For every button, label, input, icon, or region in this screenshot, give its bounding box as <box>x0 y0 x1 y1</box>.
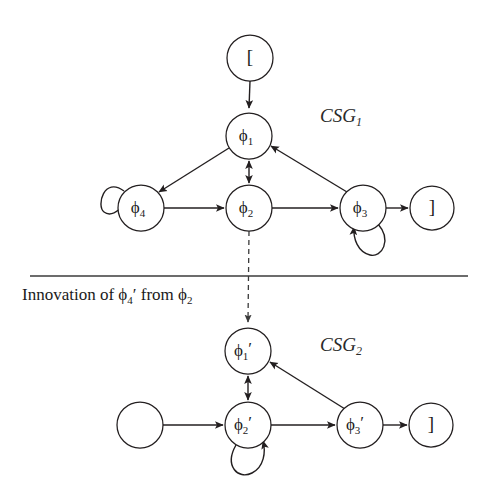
node-phi1-prime[interactable]: ϕ1′ <box>225 328 271 374</box>
diagram-root: [ ϕ1 ϕ4 ϕ2 <box>0 0 488 494</box>
graph-label-csg2-base: CSG <box>320 334 356 355</box>
node-phi3-prime[interactable]: ϕ3′ <box>337 402 383 448</box>
node-label-phi3p-prime: ′ <box>360 413 364 432</box>
edge-start1-to-phi1 <box>249 81 250 108</box>
separator-caption: Innovation of ϕ4′ from ϕ2 <box>22 285 193 306</box>
node-start-bracket-open[interactable]: [ <box>227 35 273 81</box>
node-end-bracket-close[interactable]: ] <box>410 186 454 230</box>
node-phi2-prime[interactable]: ϕ2′ <box>225 402 271 448</box>
node-label-end1: ] <box>429 196 435 217</box>
node-label-phi3-base: ϕ <box>353 198 362 217</box>
node-label-phi1p-prime: ′ <box>248 339 252 358</box>
csg1-nodes: [ ϕ1 ϕ4 ϕ2 <box>118 35 454 231</box>
node-phi3[interactable]: ϕ3 <box>340 185 386 231</box>
caption-middle: from <box>137 285 179 304</box>
caption-phi2-base: ϕ <box>178 285 187 304</box>
node-label-phi4-base: ϕ <box>131 198 140 217</box>
node-label-phi2-base: ϕ <box>239 198 248 217</box>
node-label-phi2p-base: ϕ <box>234 415 243 434</box>
node-label-phi4-sub: 4 <box>140 207 146 219</box>
node-label-end2: ] <box>428 413 434 434</box>
node-phi1[interactable]: ϕ1 <box>226 113 272 159</box>
csg-innovation-diagram: [ ϕ1 ϕ4 ϕ2 <box>0 0 488 494</box>
node-label-phi2-sub: 2 <box>248 207 254 219</box>
graph-label-csg2: CSG2 <box>320 334 362 357</box>
edge-phi1-to-phi4 <box>159 148 229 192</box>
graph-label-csg2-sub: 2 <box>356 344 362 358</box>
graph-label-csg1-base: CSG <box>320 105 356 126</box>
graph-label-csg1: CSG1 <box>320 105 362 128</box>
node-label-phi2p-prime: ′ <box>248 413 252 432</box>
caption-phi2-sub: 2 <box>187 294 193 306</box>
node-label-phi1-sub: 1 <box>248 135 254 147</box>
caption-prefix: Innovation of <box>22 285 118 304</box>
node-phi4[interactable]: ϕ4 <box>118 185 164 231</box>
edge-phi3p-to-phi1p <box>270 362 345 409</box>
node-label-phi3p-base: ϕ <box>346 415 355 434</box>
node-phi2[interactable]: ϕ2 <box>226 185 272 231</box>
node-label-phi1-base: ϕ <box>239 126 248 145</box>
node-circle-blank2[interactable] <box>117 402 163 448</box>
csg2-nodes: ϕ1′ ϕ2′ ϕ3′ ] <box>117 328 453 448</box>
node-label-phi3-sub: 3 <box>362 207 368 219</box>
caption-phi4-base: ϕ <box>118 285 127 304</box>
node-label-start1: [ <box>247 46 253 67</box>
edge-phi3-to-phi1 <box>271 146 347 192</box>
node-blank-start2[interactable] <box>117 402 163 448</box>
node-label-phi1p-base: ϕ <box>234 341 243 360</box>
node-end-bracket-close-2[interactable]: ] <box>409 403 453 447</box>
graph-label-csg1-sub: 1 <box>356 115 362 129</box>
